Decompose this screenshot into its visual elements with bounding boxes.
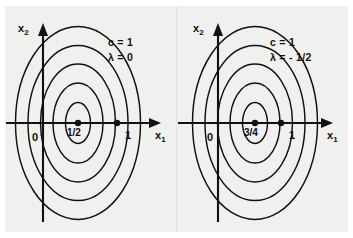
center-tick-label: 1/2 xyxy=(67,128,81,138)
right-panel: x2 x1 0 3/4 1 c = 1 λ = - 1/2 xyxy=(177,6,348,232)
origin-tick-label: 0 xyxy=(32,132,38,143)
x-axis-label: x1 xyxy=(327,130,338,144)
x-axis-arrowhead xyxy=(321,118,333,128)
param-lambda-label: λ = - 1/2 xyxy=(270,52,312,63)
y-axis-label: x2 xyxy=(193,23,204,37)
y-axis-label: x2 xyxy=(18,23,29,37)
right-panel-plot xyxy=(177,6,348,232)
left-panel: x2 x1 0 1/2 1 c = 1 λ = 0 xyxy=(5,6,176,232)
y-axis-arrowhead xyxy=(38,23,48,36)
center-tick-label: 3/4 xyxy=(244,128,258,138)
param-lambda-label: λ = 0 xyxy=(108,52,133,63)
figure-container: x2 x1 0 1/2 1 c = 1 λ = 0 xyxy=(0,0,353,238)
unit-tick-label: 1 xyxy=(125,130,131,141)
x-axis-arrowhead xyxy=(149,118,161,128)
param-c-label: c = 1 xyxy=(270,37,295,48)
unit-point-marker xyxy=(278,120,284,126)
left-x-axis xyxy=(6,118,161,128)
y-axis-arrowhead xyxy=(213,23,223,36)
param-c-label: c = 1 xyxy=(108,37,133,48)
unit-tick-label: 1 xyxy=(289,130,295,141)
left-panel-plot xyxy=(5,6,176,232)
center-point-marker xyxy=(75,120,81,126)
unit-point-marker xyxy=(114,120,120,126)
origin-tick-label: 0 xyxy=(207,132,213,143)
center-point-marker xyxy=(252,120,258,126)
x-axis-label: x1 xyxy=(155,130,166,144)
